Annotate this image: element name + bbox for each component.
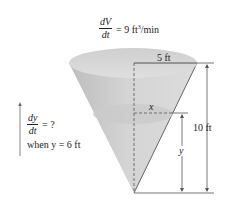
height-label: 10 ft <box>193 123 212 133</box>
y-arrow-bottom-icon <box>180 188 184 192</box>
cone-diagram <box>0 0 227 204</box>
dy-denominator: dt <box>29 125 37 136</box>
dy-dt-equals: = ? <box>42 120 55 130</box>
cone-body <box>69 63 197 193</box>
height-arrow-top-icon <box>205 64 209 68</box>
dv-dt-fraction: dV dt <box>99 17 112 40</box>
radius-label: 5 ft <box>157 53 171 63</box>
dv-dt-value: = 9 ft3/min <box>116 24 159 35</box>
water-surface-ellipse <box>93 104 173 124</box>
rising-arrow-head-icon <box>18 102 21 106</box>
water-radius-label: x <box>149 102 153 112</box>
dv-denominator: dt <box>102 29 110 40</box>
dy-numerator: dy <box>27 113 38 125</box>
y-arrow-top-icon <box>180 114 184 118</box>
water-height-label: y <box>178 146 184 156</box>
dv-equals: = 9 ft <box>116 24 138 35</box>
dv-numerator: dV <box>99 17 112 29</box>
dy-dt-fraction: dy dt <box>27 113 38 136</box>
height-arrow-bottom-icon <box>205 188 209 192</box>
dv-unit-tail: /min <box>141 24 159 35</box>
dy-condition: when y = 6 ft <box>27 140 80 150</box>
